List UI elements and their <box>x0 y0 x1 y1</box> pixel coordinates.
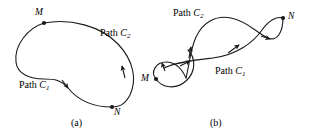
panel-b-label-n: N <box>288 12 294 22</box>
panel-a-path-c2-symbol: C <box>120 27 127 38</box>
panel-b-point-n <box>281 16 285 20</box>
panel-b-path-c1-symbol: C <box>235 65 242 76</box>
figure-container: M N Path C2 Path C1 (a) M N Path C2 Path… <box>0 0 311 137</box>
panel-b-point-m <box>154 77 158 81</box>
panel-b-path-c1-word: Path <box>215 65 233 76</box>
panel-a-path-c1-symbol: C <box>39 79 46 90</box>
panel-a-path-c1-subscript: 1 <box>46 84 50 92</box>
panel-b-caption: (b) <box>210 118 222 128</box>
panel-b-path-c2-symbol: C <box>193 7 200 18</box>
panel-b-path-c1-subscript: 1 <box>242 70 246 78</box>
panel-a-path-c2-word: Path <box>100 27 118 38</box>
panel-a-path-c1-word: Path <box>19 79 37 90</box>
panel-a-path-c2-subscript: 2 <box>127 32 131 40</box>
panel-a-path-c1 <box>16 23 112 107</box>
panel-a-point-m <box>42 21 46 25</box>
panel-b-path-c2-subscript: 2 <box>200 12 204 20</box>
panel-a-label-path-c2: Path C2 <box>100 28 130 40</box>
panel-a-label-m: M <box>35 8 43 18</box>
panel-b-path-c2-word: Path <box>173 7 191 18</box>
figure-curves <box>0 0 311 137</box>
panel-b-label-path-c1: Path C1 <box>215 66 245 78</box>
panel-b-label-path-c2: Path C2 <box>173 8 203 20</box>
panel-a-caption: (a) <box>71 118 82 128</box>
panel-a-label-n: N <box>114 108 120 118</box>
panel-b-label-m: M <box>141 74 149 84</box>
panel-a-label-path-c1: Path C1 <box>19 80 49 92</box>
